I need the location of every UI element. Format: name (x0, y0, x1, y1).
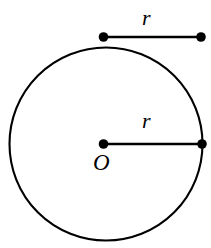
label-center-o: O (93, 151, 110, 174)
label-measure-r: r (142, 7, 151, 29)
circle-radius-figure: r r O (0, 0, 211, 248)
label-radius-r: r (142, 110, 151, 132)
center-point (99, 139, 109, 149)
figure-canvas (0, 0, 211, 248)
radius-endpoint (197, 139, 207, 149)
measure-right-endpoint (196, 32, 206, 42)
measure-left-endpoint (99, 32, 109, 42)
